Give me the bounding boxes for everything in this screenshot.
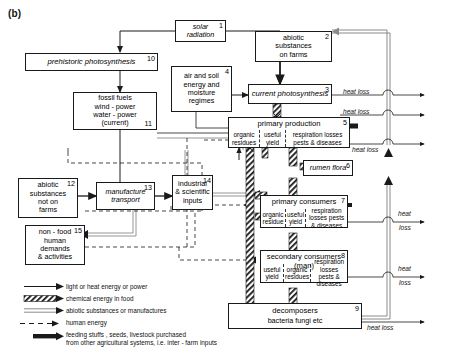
compartment-useful-yield-pc: useful yield xyxy=(285,209,305,227)
node-number-14: 14 xyxy=(203,176,211,185)
node-number-15: 15 xyxy=(74,226,82,235)
node-label-rumen-flora: rumen flora xyxy=(310,164,346,172)
double-line-arrow-icon xyxy=(20,306,66,315)
node-number-10: 10 xyxy=(147,54,155,63)
node-secondary-consumers[interactable]: 8 secondary consumers (man) useful yield… xyxy=(260,250,348,283)
node-abiotic-substances-on-farms[interactable]: 2 abiotic substances on farms xyxy=(255,31,332,62)
legend-row-inter-farm-inputs: feeding stuffs , seeds, livestock purcha… xyxy=(20,331,280,348)
node-label-fossil-line4: (current) xyxy=(93,119,137,127)
compartment-respiration-losses-pc: respiration losses pests & diseases xyxy=(305,209,347,227)
node-label-primary-production: primary production xyxy=(229,119,349,128)
node-prehistoric-photosynthesis[interactable]: 10 prehistoric photosynthesis xyxy=(25,53,158,71)
compartment-respiration-losses-sc: respiration losses pests & diseases xyxy=(310,264,347,282)
node-label-transport: transport xyxy=(106,196,146,204)
node-number-1: 1 xyxy=(219,21,223,30)
compartment-organic-residues: organic residues xyxy=(229,130,259,147)
node-manufacture-transport[interactable]: 13 manufacture transport xyxy=(96,182,155,210)
node-number-13: 13 xyxy=(144,183,152,192)
heat-loss-label-4a: heat xyxy=(398,210,411,217)
heat-loss-label-6: heat loss xyxy=(367,324,393,331)
node-non-food-human-demands[interactable]: 15 non - food human demands & activities xyxy=(25,225,85,265)
heat-loss-label-1: heat loss xyxy=(343,88,369,95)
node-rumen-flora[interactable]: 6 rumen flora xyxy=(303,160,353,176)
compartment-organic-residues-sc: organic residues xyxy=(283,264,310,282)
legend-text-inter-farm-line1: feeding stuffs , seeds, livestock purcha… xyxy=(66,331,217,339)
node-number-9: 9 xyxy=(355,304,359,313)
hatched-arrow-icon xyxy=(20,294,66,303)
node-abiotic-substances-not-on-farms[interactable]: 12 abiotic substances not on farms xyxy=(18,178,78,218)
heat-loss-label-4b: loss xyxy=(399,224,411,231)
legend-row-chemical-energy: chemical energy in food xyxy=(20,294,280,303)
node-air-and-soil-regimes[interactable]: 4 air and soil energy and moisture regim… xyxy=(171,66,232,112)
node-number-6: 6 xyxy=(346,161,350,170)
node-label-solar-line2: radiation xyxy=(187,31,215,39)
node-number-4: 4 xyxy=(225,67,229,76)
node-primary-production[interactable]: 5 primary production organic residues us… xyxy=(228,117,350,148)
legend-text-inter-farm-line2: from other agricultural systems, i.e. in… xyxy=(66,339,217,347)
dashed-arrow-icon xyxy=(20,319,66,328)
node-label-prehistoric-photosynthesis: prehistoric photosynthesis xyxy=(48,58,136,66)
legend-text-inter-farm-inputs: feeding stuffs , seeds, livestock purcha… xyxy=(66,331,217,348)
node-label-nonfood-line4: & activities xyxy=(38,253,72,261)
heat-loss-label-3: heat loss xyxy=(352,146,378,153)
node-solar-radiation[interactable]: 1 solar radiation xyxy=(175,20,226,42)
node-number-2: 2 xyxy=(325,32,329,41)
legend-text-human-energy: human energy xyxy=(66,319,107,328)
legend-text-abiotic-substances: abiotic substances or manufactures xyxy=(66,306,167,315)
heat-loss-label-5a: heat xyxy=(398,265,411,272)
legend-row-abiotic-substances: abiotic substances or manufactures xyxy=(20,306,280,315)
heat-loss-label-5b: loss xyxy=(399,279,411,286)
solid-arrow-icon xyxy=(20,282,66,291)
panel-label: (b) xyxy=(8,8,21,19)
thick-black-arrow-icon xyxy=(20,331,66,340)
node-current-photosynthesis[interactable]: 3 current photosynthesis xyxy=(248,84,332,104)
node-label-primary-consumers: primary consumers xyxy=(261,197,347,206)
node-label-industrial-line3: inputs xyxy=(175,197,209,205)
legend: light or heat energy or power chemical e… xyxy=(20,282,280,350)
compartment-useful-yield-sc: useful yield xyxy=(261,264,283,282)
legend-row-light-heat-energy: light or heat energy or power xyxy=(20,282,280,291)
legend-text-chemical-energy: chemical energy in food xyxy=(66,294,134,303)
node-number-12: 12 xyxy=(67,179,75,188)
node-number-3: 3 xyxy=(325,85,329,94)
node-label-current-photosynthesis: current photosynthesis xyxy=(252,90,328,98)
compartment-useful-yield: useful yield xyxy=(259,130,285,147)
legend-row-human-energy: human energy xyxy=(20,319,280,328)
node-industrial-scientific-inputs[interactable]: 14 industrial & scientific inputs xyxy=(172,175,213,210)
node-label-abiotic-farms-line3: on farms xyxy=(275,51,311,59)
compartment-respiration-losses: respiration losses pests & diseases xyxy=(285,130,349,147)
figure-canvas: (b) 1 solar radiation 2 abiotic substanc… xyxy=(0,0,454,357)
legend-text-light-heat-energy: light or heat energy or power xyxy=(66,282,147,291)
node-label-air-soil-line4: regimes xyxy=(184,97,220,105)
heat-loss-label-2: heat loss xyxy=(343,108,369,115)
node-fossil-fuels[interactable]: fossil fuels wind - power water - power … xyxy=(73,92,157,130)
node-number-11: 11 xyxy=(145,119,152,128)
node-primary-consumers[interactable]: 7 primary consumers organic residue usef… xyxy=(260,195,348,228)
compartment-organic-residue: organic residue xyxy=(261,209,285,227)
node-label-abiotic-not-line4: farms xyxy=(30,206,66,214)
